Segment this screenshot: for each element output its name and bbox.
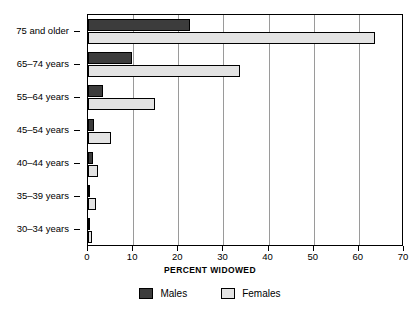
y-axis-label-6: 30–34 years <box>17 224 69 234</box>
legend-swatch-females-icon <box>221 288 235 299</box>
x-axis-tick-label-20: 20 <box>162 251 192 262</box>
legend-item-males[interactable]: Males <box>139 288 187 299</box>
legend-item-females[interactable]: Females <box>221 288 280 299</box>
bar-males-5 <box>88 185 90 197</box>
bar-females-3 <box>88 132 111 144</box>
bar-males-4 <box>88 152 93 164</box>
y-axis-tick-2 <box>74 97 80 98</box>
bar-females-2 <box>88 98 155 110</box>
x-axis-tick-label-70: 70 <box>388 251 418 262</box>
bar-females-4 <box>88 165 98 177</box>
y-axis-category-labels: 75 and older65–74 years55–64 years45–54 … <box>0 14 80 246</box>
y-axis-label-0: 75 and older <box>16 26 69 36</box>
y-axis-label-5: 35–39 years <box>17 191 69 201</box>
bar-females-0 <box>88 32 375 44</box>
y-axis-label-3: 45–54 years <box>17 125 69 135</box>
bar-females-1 <box>88 65 240 77</box>
x-axis-title: PERCENT WIDOWED <box>0 265 420 275</box>
y-axis-tick-6 <box>74 229 80 230</box>
bar-males-1 <box>88 52 132 64</box>
x-axis-tick-labels: 010203040506070 <box>0 251 420 263</box>
y-axis-tick-1 <box>74 64 80 65</box>
plot-area <box>87 14 403 246</box>
x-axis-tick-label-40: 40 <box>253 251 283 262</box>
x-axis-tick-label-0: 0 <box>72 251 102 262</box>
legend-label-males: Males <box>160 288 187 299</box>
y-axis-label-1: 65–74 years <box>17 59 69 69</box>
bar-females-5 <box>88 198 96 210</box>
bar-males-6 <box>88 218 90 230</box>
legend-label-females: Females <box>242 288 280 299</box>
chart-container: 75 and older65–74 years55–64 years45–54 … <box>0 0 420 312</box>
y-axis-tick-0 <box>74 31 80 32</box>
y-axis-label-4: 40–44 years <box>17 158 69 168</box>
y-axis-tick-4 <box>74 163 80 164</box>
x-axis-tick-label-50: 50 <box>298 251 328 262</box>
x-axis-tick-label-60: 60 <box>343 251 373 262</box>
bars-layer <box>88 15 402 245</box>
bar-females-6 <box>88 231 92 243</box>
x-axis-tick-label-30: 30 <box>207 251 237 262</box>
y-axis-tick-3 <box>74 130 80 131</box>
x-axis-tick-label-10: 10 <box>117 251 147 262</box>
bar-males-3 <box>88 119 94 131</box>
y-axis-tick-5 <box>74 196 80 197</box>
y-axis-label-2: 55–64 years <box>17 92 69 102</box>
bar-males-0 <box>88 19 190 31</box>
chart-legend: Males Females <box>0 285 420 301</box>
bar-males-2 <box>88 85 103 97</box>
legend-swatch-males-icon <box>139 288 153 299</box>
